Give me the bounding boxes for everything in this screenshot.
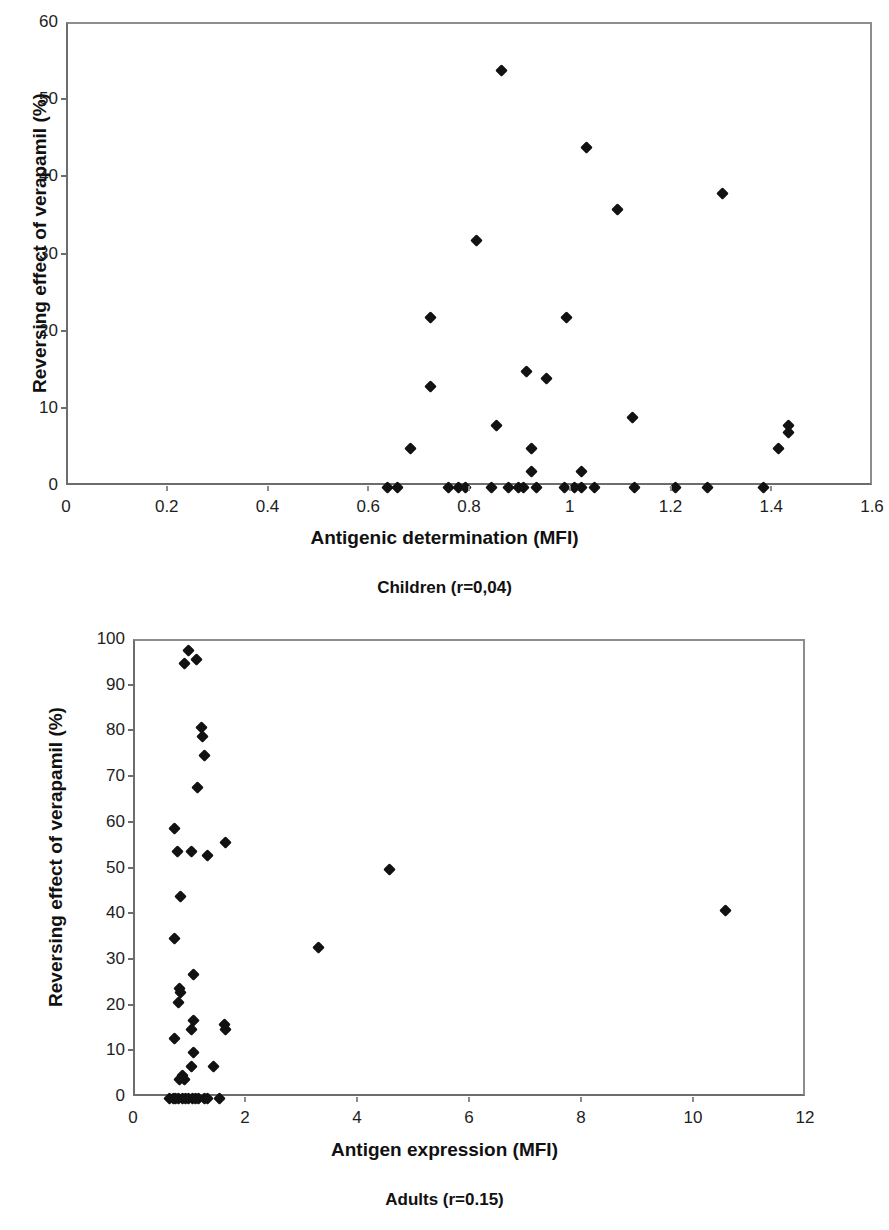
data-point <box>198 749 211 762</box>
y-tick-label: 100 <box>97 629 125 649</box>
scatter-figure: 0102030405060 00.20.40.60.811.21.41.6 Re… <box>0 0 889 1230</box>
plot-area-children <box>66 22 872 485</box>
x-tick-mark <box>569 486 571 491</box>
data-point <box>772 442 785 455</box>
data-point <box>560 311 573 324</box>
data-point <box>312 941 325 954</box>
data-point <box>171 845 184 858</box>
data-point <box>187 968 200 981</box>
x-tick-label: 0 <box>61 497 70 517</box>
y-axis-title-children: Reversing effect of verapamil (%) <box>29 43 51 443</box>
x-tick-label: 0 <box>128 1108 137 1128</box>
data-point <box>490 419 503 432</box>
data-point <box>201 849 214 862</box>
x-tick-mark <box>580 1097 582 1102</box>
data-point <box>196 731 209 744</box>
data-point <box>782 427 795 440</box>
y-tick-mark <box>61 407 67 409</box>
data-point <box>485 481 498 494</box>
data-point <box>575 481 588 494</box>
data-point <box>207 1060 220 1073</box>
y-tick-mark <box>128 821 134 823</box>
page-footer-artifact <box>18 1218 871 1230</box>
x-tick-label: 1 <box>565 497 574 517</box>
caption-adults: Adults (r=0.15) <box>0 1190 889 1210</box>
y-tick-label: 60 <box>39 12 58 32</box>
y-tick-label: 20 <box>106 995 125 1015</box>
data-point <box>525 442 538 455</box>
x-tick-mark <box>670 486 672 491</box>
data-point <box>168 822 181 835</box>
data-point <box>719 904 732 917</box>
data-point <box>701 481 714 494</box>
data-point <box>190 653 203 666</box>
caption-children: Children (r=0,04) <box>0 578 889 598</box>
data-point <box>495 64 508 77</box>
data-point <box>392 481 405 494</box>
data-point <box>187 1046 200 1059</box>
data-point <box>178 657 191 670</box>
x-axis-title-adults: Antigen expression (MFI) <box>0 1139 889 1161</box>
y-tick-label: 0 <box>116 1086 125 1106</box>
x-tick-mark <box>367 486 369 491</box>
plot-area-adults <box>133 639 805 1096</box>
y-axis-title-adults: Reversing effect of verapamil (%) <box>45 657 67 1057</box>
x-tick-mark <box>356 1097 358 1102</box>
data-point <box>530 481 543 494</box>
y-tick-mark <box>128 1004 134 1006</box>
x-tick-label: 0.2 <box>155 497 179 517</box>
y-tick-label: 30 <box>106 949 125 969</box>
x-tick-mark <box>468 486 470 491</box>
x-tick-label: 1.4 <box>759 497 783 517</box>
x-tick-mark <box>166 486 168 491</box>
x-tick-mark <box>468 1097 470 1102</box>
chart-adults: 0102030405060708090100 024681012 Reversi… <box>0 610 889 1230</box>
x-tick-label: 1.6 <box>860 497 884 517</box>
y-tick-mark <box>61 253 67 255</box>
y-tick-mark <box>61 330 67 332</box>
x-tick-label: 10 <box>684 1108 703 1128</box>
data-point <box>588 481 601 494</box>
data-points-children <box>68 24 870 483</box>
data-point <box>191 781 204 794</box>
x-axis-title-children: Antigenic determination (MFI) <box>0 527 889 549</box>
x-tick-mark <box>692 1097 694 1102</box>
data-point <box>575 465 588 478</box>
y-tick-mark <box>61 175 67 177</box>
data-point <box>717 187 730 200</box>
y-tick-label: 0 <box>49 475 58 495</box>
y-tick-mark <box>61 98 67 100</box>
data-point <box>626 411 639 424</box>
data-point <box>757 481 770 494</box>
y-tick-label: 90 <box>106 675 125 695</box>
x-tick-label: 4 <box>352 1108 361 1128</box>
y-tick-mark <box>128 912 134 914</box>
data-point <box>525 465 538 478</box>
data-point <box>580 141 593 154</box>
data-point <box>182 644 195 657</box>
x-tick-label: 0.6 <box>356 497 380 517</box>
y-tick-label: 80 <box>106 720 125 740</box>
y-tick-mark <box>128 729 134 731</box>
y-tick-mark <box>128 684 134 686</box>
x-tick-label: 0.8 <box>457 497 481 517</box>
data-point <box>404 442 417 455</box>
y-tick-mark <box>128 958 134 960</box>
data-point <box>520 365 533 378</box>
y-tick-mark <box>128 867 134 869</box>
data-point <box>213 1092 226 1105</box>
x-tick-label: 12 <box>796 1108 815 1128</box>
x-tick-label: 2 <box>240 1108 249 1128</box>
y-tick-label: 40 <box>106 903 125 923</box>
y-tick-mark <box>128 1049 134 1051</box>
y-tick-label: 10 <box>106 1040 125 1060</box>
data-point <box>424 380 437 393</box>
data-point <box>185 845 198 858</box>
data-points-adults <box>135 641 803 1094</box>
data-point <box>470 234 483 247</box>
data-point <box>628 481 641 494</box>
x-tick-mark <box>770 486 772 491</box>
data-point <box>611 203 624 216</box>
y-tick-label: 60 <box>106 812 125 832</box>
data-point <box>383 863 396 876</box>
